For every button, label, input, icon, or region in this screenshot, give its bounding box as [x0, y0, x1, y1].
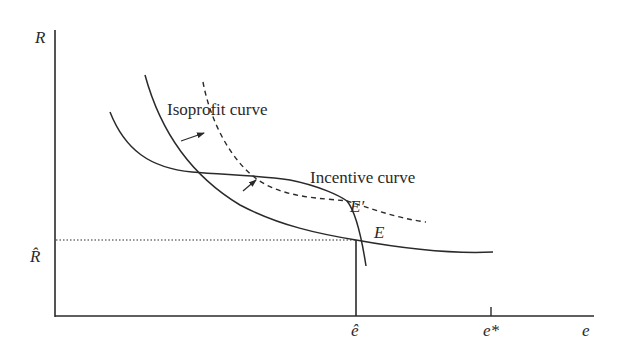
e-star-label: e*: [483, 321, 500, 340]
point-e-label: E: [373, 223, 385, 242]
y-axis-label: R: [34, 28, 46, 47]
economics-diagram: R e R̂ ê e* Isoprofit curve Incentive cu…: [0, 0, 625, 356]
incentive-curve-label: Incentive curve: [310, 168, 415, 187]
isoprofit-curve-label: Isoprofit curve: [167, 100, 268, 119]
e-hat-label: ê: [351, 321, 359, 340]
incentive-curve: [110, 112, 366, 266]
r-hat-label: R̂: [29, 247, 41, 266]
point-e-prime-label: E′: [349, 197, 364, 216]
arrow-icon: [243, 180, 256, 191]
arrow-icon: [181, 133, 204, 141]
x-axis-label: e: [582, 321, 590, 340]
